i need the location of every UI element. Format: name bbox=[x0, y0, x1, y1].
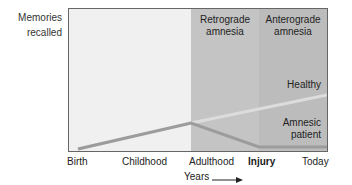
x-tick-birth: Birth bbox=[67, 156, 88, 167]
y-axis-label-line1: Memories bbox=[18, 10, 62, 25]
amnesic-label-line2: patient bbox=[283, 129, 321, 141]
healthy-label: Healthy bbox=[287, 79, 321, 91]
x-tick-adulthood: Adulthood bbox=[189, 156, 234, 167]
right-arrow-icon bbox=[212, 177, 244, 183]
x-axis-label: Years bbox=[184, 171, 209, 182]
x-tick-childhood: Childhood bbox=[122, 156, 167, 167]
plot-area: Retrograde amnesia Anterograde amnesia H… bbox=[68, 8, 328, 152]
x-tick-injury: Injury bbox=[248, 156, 275, 167]
x-tick-today: Today bbox=[302, 156, 329, 167]
y-axis-label-line2: recalled bbox=[18, 25, 62, 40]
y-axis-label: Memories recalled bbox=[18, 10, 62, 40]
amnesic-label: Amnesic patient bbox=[283, 117, 321, 141]
amnesic-label-line1: Amnesic bbox=[283, 117, 321, 129]
